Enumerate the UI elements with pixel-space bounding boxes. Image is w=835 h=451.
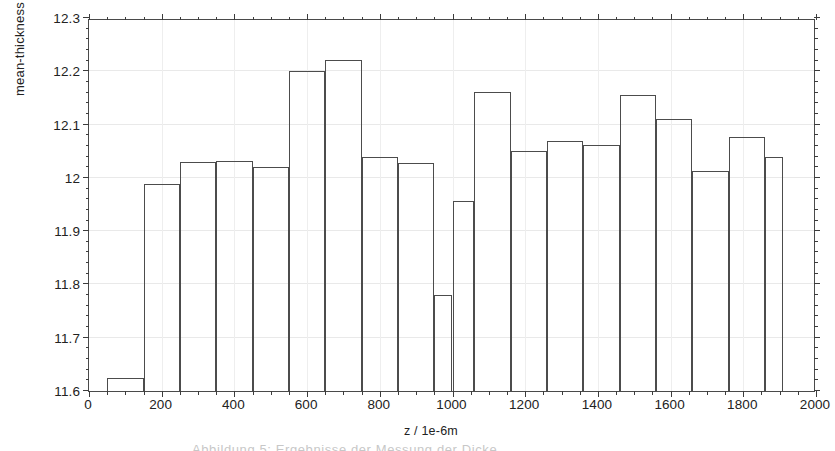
y-tick-minor — [86, 134, 90, 135]
y-tick-minor — [86, 294, 90, 295]
x-tick-minor — [180, 391, 181, 395]
y-tick-major — [814, 283, 820, 284]
y-tick-minor — [86, 305, 90, 306]
x-tick-minor — [434, 17, 435, 21]
x-tick-minor — [271, 17, 272, 21]
y-tick-minor — [86, 113, 90, 114]
x-tick-minor — [144, 17, 145, 21]
y-tick-minor — [814, 60, 818, 61]
y-tick-minor — [814, 102, 818, 103]
y-tick-minor — [86, 220, 90, 221]
x-tick-major — [162, 14, 163, 20]
y-tick-minor — [86, 145, 90, 146]
y-tick-minor — [86, 241, 90, 242]
y-tick-major — [814, 337, 820, 338]
y-tick-label: 11.6 — [54, 385, 80, 399]
x-axis-title: z / 1e-6m — [404, 424, 458, 438]
x-tick-minor — [725, 17, 726, 21]
x-tick-minor — [253, 17, 254, 21]
x-tick-minor — [471, 391, 472, 395]
y-tick-minor — [86, 49, 90, 50]
y-tick-minor — [814, 81, 818, 82]
bar — [398, 163, 434, 391]
x-tick-minor — [489, 17, 490, 21]
y-tick-minor — [814, 38, 818, 39]
y-tick-minor — [814, 156, 818, 157]
x-tick-minor — [616, 17, 617, 21]
y-tick-minor — [86, 315, 90, 316]
y-tick-minor — [814, 113, 818, 114]
x-tick-label: 1000 — [422, 398, 482, 412]
x-tick-label: 200 — [131, 398, 191, 412]
x-tick-minor — [689, 17, 690, 21]
y-tick-minor — [814, 241, 818, 242]
y-tick-minor — [86, 209, 90, 210]
y-tick-label: 12.1 — [53, 119, 80, 133]
x-tick-label: 1200 — [494, 398, 554, 412]
y-axis-title: mean-thickness / 1e-6m — [12, 0, 27, 96]
bar — [325, 60, 361, 391]
y-tick-minor — [814, 145, 818, 146]
x-tick-minor — [198, 17, 199, 21]
x-tick-major — [525, 14, 526, 20]
y-tick-major — [83, 124, 89, 125]
bar — [144, 184, 180, 391]
x-tick-minor — [343, 391, 344, 395]
x-tick-minor — [216, 391, 217, 395]
bar — [692, 171, 728, 391]
x-tick-minor — [471, 17, 472, 21]
y-tick-minor — [814, 92, 818, 93]
y-tick-major — [814, 177, 820, 178]
y-tick-minor — [86, 326, 90, 327]
y-tick-label: 11.9 — [54, 225, 80, 239]
y-tick-minor — [814, 379, 818, 380]
bar — [474, 92, 510, 391]
y-tick-minor — [814, 198, 818, 199]
y-tick-minor — [86, 92, 90, 93]
y-tick-major — [814, 124, 820, 125]
y-tick-minor — [86, 102, 90, 103]
y-tick-minor — [814, 188, 818, 189]
x-tick-minor — [543, 17, 544, 21]
y-tick-minor — [814, 28, 818, 29]
x-tick-minor — [343, 17, 344, 21]
y-tick-major — [814, 17, 820, 18]
y-tick-minor — [814, 315, 818, 316]
x-tick-minor — [325, 17, 326, 21]
y-tick-label: 12 — [65, 172, 80, 186]
x-tick-minor — [180, 17, 181, 21]
plot-area — [88, 19, 815, 392]
x-tick-minor — [107, 17, 108, 21]
x-tick-major — [380, 14, 381, 20]
y-tick-major — [83, 283, 89, 284]
y-tick-minor — [86, 251, 90, 252]
y-tick-minor — [86, 156, 90, 157]
x-tick-minor — [125, 391, 126, 395]
x-tick-minor — [689, 391, 690, 395]
x-tick-minor — [652, 391, 653, 395]
y-tick-minor — [86, 262, 90, 263]
x-tick-major — [671, 14, 672, 20]
y-tick-minor — [814, 294, 818, 295]
y-tick-minor — [86, 81, 90, 82]
x-tick-label: 1600 — [640, 398, 700, 412]
x-tick-minor — [507, 17, 508, 21]
x-tick-minor — [543, 391, 544, 395]
x-tick-minor — [798, 17, 799, 21]
bar — [180, 162, 216, 391]
x-tick-minor — [616, 391, 617, 395]
y-tick-major — [83, 337, 89, 338]
x-tick-major — [743, 14, 744, 20]
y-tick-label: 12.3 — [53, 12, 80, 26]
x-tick-minor — [434, 391, 435, 395]
y-tick-minor — [814, 369, 818, 370]
x-tick-label: 0 — [58, 398, 118, 412]
y-tick-minor — [86, 369, 90, 370]
y-tick-minor — [86, 188, 90, 189]
y-tick-minor — [814, 262, 818, 263]
x-tick-minor — [507, 391, 508, 395]
bar — [511, 151, 547, 391]
x-tick-label: 1800 — [712, 398, 772, 412]
x-tick-minor — [416, 17, 417, 21]
